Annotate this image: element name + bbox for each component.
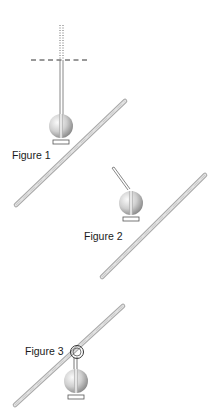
figure-1-label: Figure 1: [12, 150, 51, 161]
pendulum-string: [60, 60, 63, 122]
vertical-reference-line: [60, 25, 63, 60]
ball-base: [53, 140, 69, 144]
pendulum-string: [112, 167, 130, 190]
figure-3-label: Figure 3: [25, 346, 64, 357]
ball-base: [68, 395, 84, 399]
pendulum-ball: [64, 369, 88, 393]
inclined-rod: [102, 175, 205, 277]
figure-2: [102, 167, 205, 277]
figure-1: [16, 25, 125, 205]
figure-2-label: Figure 2: [84, 231, 123, 242]
pendulum-ball: [119, 191, 143, 215]
pendulum-ball: [49, 114, 73, 138]
ball-base: [123, 217, 139, 221]
